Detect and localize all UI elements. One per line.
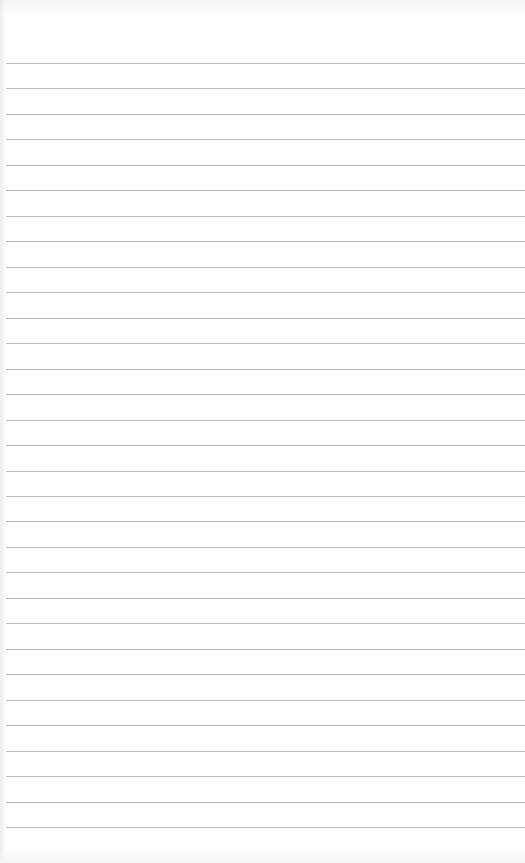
ruled-line — [6, 292, 525, 293]
ruled-line — [6, 802, 525, 803]
ruled-line — [6, 267, 525, 268]
ruled-line — [6, 700, 525, 701]
ruled-line — [6, 496, 525, 497]
ruled-line — [6, 572, 525, 573]
ruled-line — [6, 216, 525, 217]
ruled-line — [6, 674, 525, 675]
ruled-line — [6, 471, 525, 472]
ruled-line — [6, 190, 525, 191]
ruled-line — [6, 547, 525, 548]
ruled-line — [6, 139, 525, 140]
ruled-line — [6, 623, 525, 624]
ruled-line — [6, 394, 525, 395]
ruled-line — [6, 521, 525, 522]
ruled-line — [6, 827, 525, 828]
ruled-line — [6, 776, 525, 777]
ruled-line — [6, 369, 525, 370]
bottom-margin — [0, 847, 525, 863]
ruled-line — [6, 343, 525, 344]
ruled-line — [6, 445, 525, 446]
ruled-line — [6, 649, 525, 650]
lined-paper-page — [0, 0, 525, 863]
ruled-line — [6, 241, 525, 242]
ruled-line — [6, 63, 525, 64]
left-edge-shadow — [0, 0, 6, 863]
top-margin — [0, 0, 525, 14]
ruled-line — [6, 88, 525, 89]
ruled-line — [6, 318, 525, 319]
ruled-line — [6, 420, 525, 421]
ruled-line — [6, 114, 525, 115]
ruled-line — [6, 751, 525, 752]
ruled-line — [6, 165, 525, 166]
ruled-line — [6, 598, 525, 599]
ruled-line — [6, 725, 525, 726]
